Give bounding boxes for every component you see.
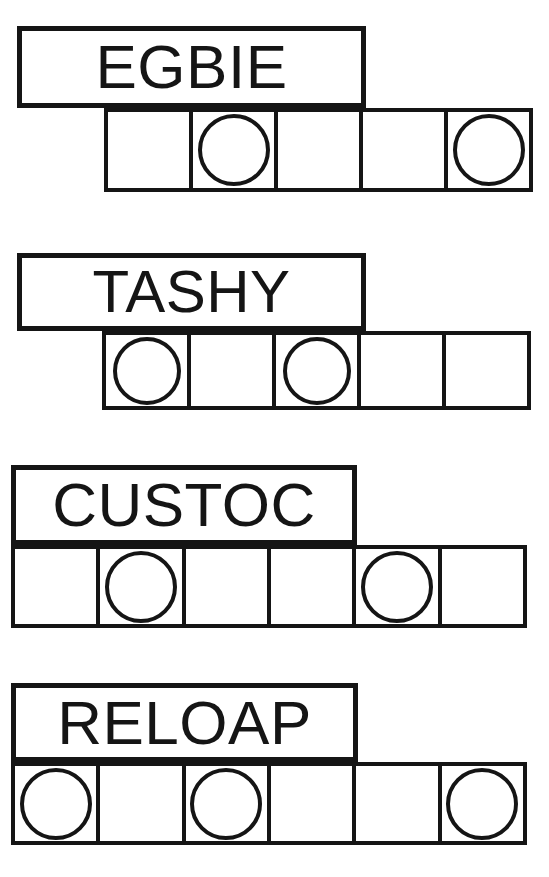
circle-marker-icon bbox=[361, 551, 433, 623]
answer-cell-circled[interactable] bbox=[442, 766, 523, 841]
word-label-box: EGBIE bbox=[17, 26, 366, 108]
puzzle-word: CUSTOC bbox=[52, 474, 316, 536]
circle-marker-icon bbox=[190, 768, 262, 840]
answer-cell[interactable] bbox=[356, 766, 441, 841]
answer-cell[interactable] bbox=[271, 549, 356, 624]
answer-cell-circled[interactable] bbox=[448, 112, 529, 188]
answer-cell[interactable] bbox=[271, 766, 356, 841]
circle-marker-icon bbox=[105, 551, 177, 623]
answer-cell[interactable] bbox=[442, 549, 523, 624]
answer-cell[interactable] bbox=[15, 549, 100, 624]
answer-cell[interactable] bbox=[186, 549, 271, 624]
answer-grid bbox=[104, 108, 533, 192]
circle-marker-icon bbox=[446, 768, 518, 840]
answer-cell-circled[interactable] bbox=[186, 766, 271, 841]
circle-marker-icon bbox=[113, 337, 181, 405]
answer-cell[interactable] bbox=[108, 112, 193, 188]
answer-cell[interactable] bbox=[100, 766, 185, 841]
answer-cell-circled[interactable] bbox=[193, 112, 278, 188]
word-label-box: RELOAP bbox=[11, 683, 358, 762]
circle-marker-icon bbox=[283, 337, 351, 405]
circle-marker-icon bbox=[198, 114, 270, 186]
answer-cell[interactable] bbox=[191, 335, 276, 406]
answer-grid bbox=[11, 545, 527, 628]
circle-marker-icon bbox=[453, 114, 525, 186]
puzzle-word: RELOAP bbox=[57, 692, 312, 754]
answer-grid bbox=[11, 762, 527, 845]
circle-marker-icon bbox=[20, 768, 92, 840]
word-label-box: CUSTOC bbox=[11, 465, 357, 545]
answer-grid bbox=[102, 331, 531, 410]
puzzle-word: EGBIE bbox=[95, 36, 287, 98]
worksheet-page: EGBIETASHYCUSTOCRELOAP bbox=[0, 0, 549, 877]
answer-cell[interactable] bbox=[363, 112, 448, 188]
puzzle-word: TASHY bbox=[92, 262, 290, 322]
answer-cell-circled[interactable] bbox=[356, 549, 441, 624]
answer-cell-circled[interactable] bbox=[100, 549, 185, 624]
word-label-box: TASHY bbox=[17, 253, 366, 331]
answer-cell[interactable] bbox=[361, 335, 446, 406]
answer-cell-circled[interactable] bbox=[106, 335, 191, 406]
answer-cell-circled[interactable] bbox=[15, 766, 100, 841]
answer-cell[interactable] bbox=[278, 112, 363, 188]
answer-cell[interactable] bbox=[446, 335, 527, 406]
answer-cell-circled[interactable] bbox=[276, 335, 361, 406]
